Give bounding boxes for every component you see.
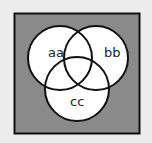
set-c-label: cc — [70, 94, 84, 109]
venn-diagram: aa bb cc — [0, 0, 152, 143]
set-a-label: aa — [48, 45, 64, 60]
set-b-label: bb — [104, 45, 121, 60]
